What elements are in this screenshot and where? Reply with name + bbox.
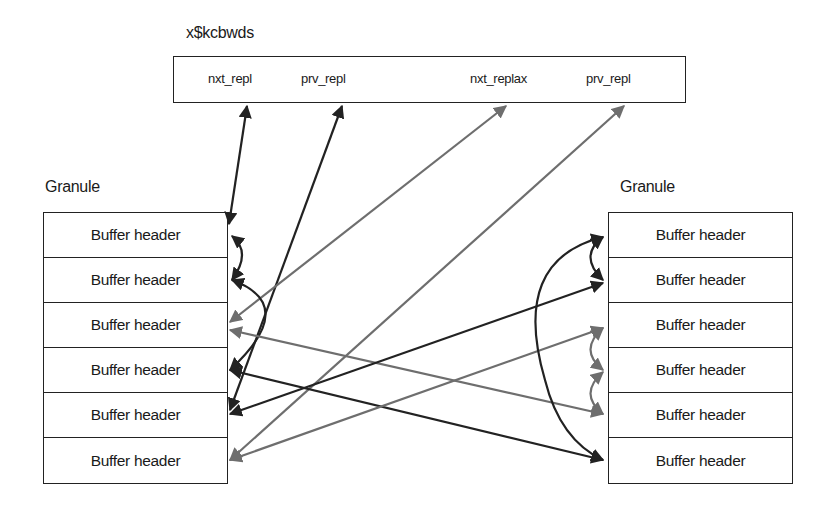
arrow-right-bh4-bh5: [591, 372, 604, 414]
left-buffer-header-4: Buffer header: [44, 348, 227, 393]
left-granule: Buffer header Buffer header Buffer heade…: [43, 212, 228, 484]
field-prv-repl-ax: prv_repl: [586, 71, 631, 86]
field-prv-repl: prv_repl: [301, 71, 346, 86]
right-buffer-header-1: Buffer header: [609, 213, 792, 258]
right-buffer-header-5: Buffer header: [609, 393, 792, 438]
left-buffer-header-3: Buffer header: [44, 303, 227, 348]
right-buffer-header-3: Buffer header: [609, 303, 792, 348]
arrow-right-bh3-bh4: [591, 328, 604, 370]
left-granule-label: Granule: [45, 178, 100, 196]
right-granule: Buffer header Buffer header Buffer heade…: [608, 212, 793, 484]
left-buffer-header-5: Buffer header: [44, 393, 227, 438]
arrow-left-bh4-right-bh6: [230, 370, 603, 460]
structure-title: x$kcbwds: [186, 24, 254, 42]
arrow-left-bh6-right-bh3: [230, 328, 603, 460]
right-buffer-header-6: Buffer header: [609, 438, 792, 483]
left-buffer-header-2: Buffer header: [44, 258, 227, 303]
arrow-nxt-replax-left-bh3: [230, 106, 506, 322]
left-buffer-header-6: Buffer header: [44, 438, 227, 483]
arrow-nxt-repl-left-bh1: [229, 106, 247, 224]
arrow-prv-repl-ax-left-bh6: [230, 106, 624, 460]
arrow-left-bh2-bh4: [230, 280, 266, 370]
arrow-left-bh5-right-bh2: [230, 283, 603, 414]
arrow-right-bh1-bh2: [591, 237, 604, 280]
arrow-left-bh3-right-bh5: [230, 330, 603, 414]
right-granule-label: Granule: [620, 178, 675, 196]
kcbwds-structure-box: nxt_repl prv_repl nxt_replax prv_repl: [173, 56, 686, 103]
right-buffer-header-4: Buffer header: [609, 348, 792, 393]
field-nxt-repl: nxt_repl: [208, 71, 252, 86]
right-buffer-header-2: Buffer header: [609, 258, 792, 303]
arrow-right-bh1-bh6: [535, 237, 603, 460]
arrow-left-bh1-bh2: [232, 236, 242, 280]
left-buffer-header-1: Buffer header: [44, 213, 227, 258]
field-nxt-replax: nxt_replax: [470, 71, 527, 86]
arrow-prv-repl-left-bh5: [230, 106, 342, 410]
